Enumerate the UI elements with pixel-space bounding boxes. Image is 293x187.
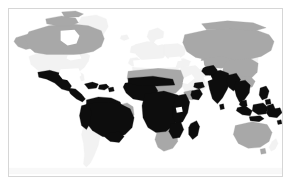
world-map-figure xyxy=(8,8,283,177)
screenshot-root xyxy=(0,0,293,187)
world-map-canvas xyxy=(9,9,282,176)
